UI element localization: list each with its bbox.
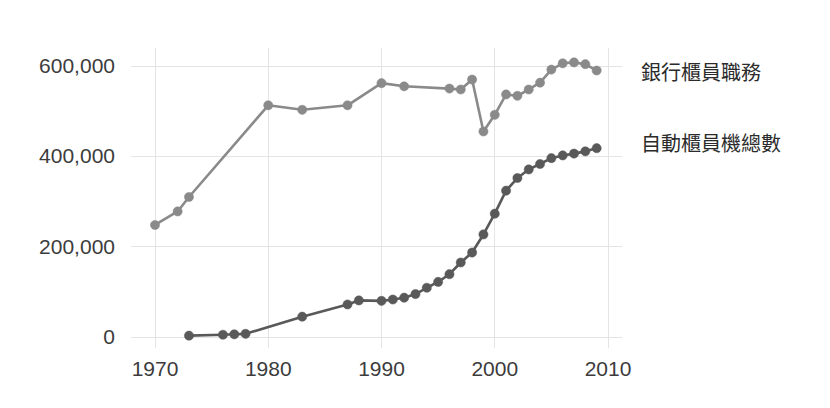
data-point: [184, 331, 193, 340]
data-point: [547, 154, 556, 163]
y-axis-tick-label: 200,000: [39, 235, 115, 258]
data-point: [230, 330, 239, 339]
y-axis-tick-label: 0: [103, 325, 115, 348]
data-point: [354, 296, 363, 305]
data-point: [456, 85, 465, 94]
data-point: [218, 330, 227, 339]
data-point: [422, 283, 431, 292]
data-point: [388, 295, 397, 304]
data-point: [468, 248, 477, 257]
data-point: [581, 147, 590, 156]
data-point: [501, 90, 510, 99]
data-point: [400, 293, 409, 302]
y-axis-tick-label: 600,000: [39, 54, 115, 77]
data-point: [241, 329, 250, 338]
x-axis-tick-labels: 19701980199020002010: [132, 357, 632, 380]
data-point: [456, 258, 465, 267]
legend-label-0: 銀行櫃員職務: [641, 62, 761, 84]
data-point: [377, 79, 386, 88]
data-point: [264, 101, 273, 110]
data-point: [490, 209, 499, 218]
data-point: [592, 66, 601, 75]
series-lines: [155, 62, 597, 335]
data-point: [535, 78, 544, 87]
x-axis-tick-label: 1970: [132, 357, 179, 380]
data-point: [490, 110, 499, 119]
data-point: [445, 270, 454, 279]
chart-legend: 銀行櫃員職務自動櫃員機總數: [641, 62, 781, 155]
legend-label-1: 自動櫃員機總數: [641, 133, 781, 155]
data-point: [411, 289, 420, 298]
x-axis-tick-label: 2010: [585, 357, 632, 380]
data-point: [581, 60, 590, 69]
data-point: [468, 75, 477, 84]
chart-container: 0200,000400,000600,000 19701980199020002…: [0, 0, 830, 408]
x-axis-tick-label: 1980: [245, 357, 292, 380]
data-point: [569, 58, 578, 67]
data-point: [524, 165, 533, 174]
series-points: [150, 58, 601, 340]
data-point: [184, 192, 193, 201]
y-axis-tick-labels: 0200,000400,000600,000: [39, 54, 115, 348]
data-point: [547, 65, 556, 74]
data-point: [501, 186, 510, 195]
data-point: [343, 101, 352, 110]
data-point: [513, 91, 522, 100]
x-axis-tick-label: 2000: [471, 357, 518, 380]
data-point: [298, 105, 307, 114]
data-point: [298, 312, 307, 321]
data-point: [377, 296, 386, 305]
data-point: [173, 207, 182, 216]
data-point: [513, 173, 522, 182]
data-point: [558, 59, 567, 68]
data-point: [150, 220, 159, 229]
data-point: [569, 149, 578, 158]
data-point: [558, 151, 567, 160]
data-point: [479, 230, 488, 239]
y-axis-tick-label: 400,000: [39, 144, 115, 167]
data-point: [343, 300, 352, 309]
data-point: [400, 82, 409, 91]
data-point: [434, 277, 443, 286]
data-point: [535, 159, 544, 168]
data-point: [592, 144, 601, 153]
x-axis-tick-label: 1990: [358, 357, 405, 380]
data-point: [445, 84, 454, 93]
line-chart: 0200,000400,000600,000 19701980199020002…: [0, 0, 830, 408]
data-point: [524, 85, 533, 94]
series-line-1: [189, 148, 597, 335]
data-point: [479, 127, 488, 136]
gridlines: [131, 48, 622, 348]
